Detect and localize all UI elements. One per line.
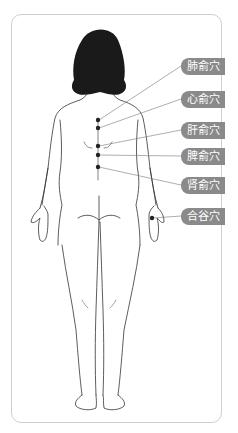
hair	[72, 30, 126, 95]
point-ganshu	[96, 144, 100, 148]
label-hegu: 合谷穴	[181, 208, 225, 225]
point-feishu	[96, 118, 100, 122]
point-xinshu	[96, 126, 100, 130]
point-pishu	[96, 153, 100, 157]
label-shenshu: 肾俞穴	[181, 177, 225, 194]
point-shenshu	[96, 165, 100, 169]
label-pishu: 脾俞穴	[181, 148, 225, 165]
label-xinshu: 心俞穴	[181, 91, 225, 108]
point-hegu	[150, 216, 154, 220]
label-feishu: 肺俞穴	[181, 58, 225, 75]
label-ganshu: 肝俞穴	[181, 122, 225, 139]
